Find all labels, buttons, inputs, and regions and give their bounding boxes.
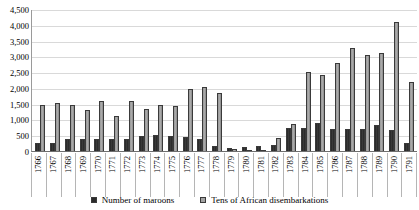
x-axis-tick: 1791 bbox=[401, 153, 417, 197]
bar-group bbox=[342, 10, 357, 151]
x-axis-tick-label: 1777 bbox=[197, 156, 206, 173]
x-axis-tick: 1781 bbox=[253, 153, 268, 197]
x-axis-tick: 1779 bbox=[224, 153, 239, 197]
bar-group bbox=[387, 10, 402, 151]
bars-layer bbox=[32, 10, 417, 151]
x-axis-tick: 1768 bbox=[61, 153, 76, 197]
bar-disembarkations bbox=[335, 63, 340, 151]
x-axis-tick-label: 1781 bbox=[257, 156, 266, 173]
x-axis-tick: 1784 bbox=[298, 153, 313, 197]
bar-disembarkations bbox=[409, 82, 414, 151]
x-axis-tick: 1773 bbox=[135, 153, 150, 197]
bar-group bbox=[210, 10, 225, 151]
x-axis-tick-label: 1789 bbox=[375, 156, 384, 173]
y-axis-tick-label: 3,500 bbox=[10, 37, 29, 46]
bar-disembarkations bbox=[144, 109, 149, 151]
x-axis-tick-label: 1767 bbox=[49, 156, 58, 173]
bar-disembarkations bbox=[217, 93, 222, 151]
x-axis-tick: 1770 bbox=[90, 153, 105, 197]
x-axis: 1766176717681769177017711772177317741775… bbox=[31, 153, 417, 197]
x-axis-tick: 1778 bbox=[209, 153, 224, 197]
x-axis-tick-label: 1769 bbox=[79, 156, 88, 173]
x-axis-tick-label: 1782 bbox=[271, 156, 280, 173]
y-axis-tick-label: 2,000 bbox=[10, 85, 29, 94]
x-axis-tick: 1786 bbox=[327, 153, 342, 197]
x-axis-tick: 1771 bbox=[105, 153, 120, 197]
x-axis-tick-label: 1775 bbox=[168, 156, 177, 173]
bar-disembarkations bbox=[394, 22, 399, 151]
x-axis-tick-label: 1770 bbox=[94, 156, 103, 173]
x-axis-tick-label: 1788 bbox=[360, 156, 369, 173]
x-axis-tick: 1769 bbox=[75, 153, 90, 197]
bar-group bbox=[401, 10, 416, 151]
bar-group bbox=[180, 10, 195, 151]
y-axis-tick-label: 1,500 bbox=[10, 100, 29, 109]
x-axis-tick: 1785 bbox=[312, 153, 327, 197]
legend-label: Number of maroons bbox=[102, 196, 174, 205]
x-axis-tick-label: 1790 bbox=[390, 156, 399, 173]
chart-legend: Number of maroonsTens of African disemba… bbox=[0, 192, 419, 208]
legend-item[interactable]: Tens of African disembarkations bbox=[200, 196, 328, 205]
x-axis-tick-label: 1768 bbox=[64, 156, 73, 173]
bar-disembarkations bbox=[99, 101, 104, 151]
bar-group bbox=[313, 10, 328, 151]
bar-disembarkations bbox=[40, 105, 45, 151]
bar-disembarkations bbox=[306, 72, 311, 151]
x-axis-tick-label: 1779 bbox=[227, 156, 236, 173]
bar-group bbox=[328, 10, 343, 151]
bar-group bbox=[33, 10, 48, 151]
bar-group bbox=[298, 10, 313, 151]
bar-disembarkations bbox=[379, 53, 384, 151]
x-axis-tick: 1782 bbox=[268, 153, 283, 197]
x-axis-tick: 1776 bbox=[179, 153, 194, 197]
bar-disembarkations bbox=[350, 48, 355, 151]
bar-disembarkations bbox=[247, 150, 252, 151]
bar-group bbox=[77, 10, 92, 151]
x-axis-tick-label: 1780 bbox=[242, 156, 251, 173]
x-axis-tick: 1787 bbox=[342, 153, 357, 197]
legend-label: Tens of African disembarkations bbox=[211, 196, 328, 205]
bar-group bbox=[92, 10, 107, 151]
y-axis-tick-label: 2,500 bbox=[10, 69, 29, 78]
bar-group bbox=[372, 10, 387, 151]
bar-disembarkations bbox=[70, 105, 75, 151]
y-axis-tick-label: 1,000 bbox=[10, 116, 29, 125]
x-axis-tick-label: 1784 bbox=[301, 156, 310, 173]
bar-chart: 4,5004,0003,5003,0002,5002,0001,5001,000… bbox=[0, 0, 419, 210]
x-axis-tick-label: 1778 bbox=[212, 156, 221, 173]
y-axis-tick-label: 4,000 bbox=[10, 22, 29, 31]
bar-disembarkations bbox=[158, 105, 163, 151]
x-axis-tick: 1777 bbox=[194, 153, 209, 197]
x-axis-tick-label: 1772 bbox=[123, 156, 132, 173]
bar-group bbox=[283, 10, 298, 151]
x-axis-tick-label: 1776 bbox=[183, 156, 192, 173]
bar-group bbox=[357, 10, 372, 151]
bar-disembarkations bbox=[129, 101, 134, 151]
bar-group bbox=[254, 10, 269, 151]
bar-group bbox=[62, 10, 77, 151]
x-axis-tick: 1789 bbox=[372, 153, 387, 197]
x-axis-tick-label: 1791 bbox=[405, 156, 414, 173]
bar-group bbox=[151, 10, 166, 151]
y-axis-tick-label: 500 bbox=[16, 132, 29, 141]
y-axis-tick-label: 4,500 bbox=[10, 6, 29, 15]
bar-group bbox=[121, 10, 136, 151]
bar-disembarkations bbox=[365, 55, 370, 151]
bar-disembarkations bbox=[188, 89, 193, 151]
bar-disembarkations bbox=[173, 106, 178, 151]
legend-item[interactable]: Number of maroons bbox=[91, 196, 174, 205]
x-axis-tick: 1788 bbox=[357, 153, 372, 197]
bar-disembarkations bbox=[291, 124, 296, 151]
bar-disembarkations bbox=[55, 103, 60, 151]
x-axis-tick: 1783 bbox=[283, 153, 298, 197]
bar-group bbox=[225, 10, 240, 151]
bar-disembarkations bbox=[114, 116, 119, 151]
y-axis-tick-label: 3,000 bbox=[10, 53, 29, 62]
x-axis-tick-label: 1785 bbox=[316, 156, 325, 173]
x-axis-tick-label: 1774 bbox=[153, 156, 162, 173]
bar-group bbox=[48, 10, 63, 151]
x-axis-tick-label: 1783 bbox=[286, 156, 295, 173]
x-axis-tick: 1790 bbox=[387, 153, 402, 197]
x-axis-tick-label: 1787 bbox=[345, 156, 354, 173]
bar-disembarkations bbox=[320, 75, 325, 151]
